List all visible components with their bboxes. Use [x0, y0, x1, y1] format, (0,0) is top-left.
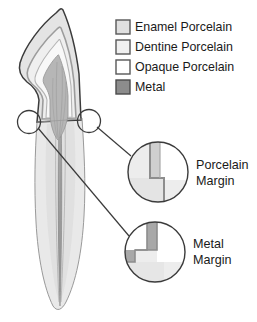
legend-item-label: Dentine Porcelain [135, 40, 233, 54]
legend-item-label: Opaque Porcelain [135, 60, 234, 74]
legend-item-opaque-porcelain[interactable]: Opaque Porcelain [116, 60, 234, 74]
legend-item-metal[interactable]: Metal [116, 80, 165, 94]
square-swatch-icon [116, 60, 130, 74]
legend-item-dentine-porcelain[interactable]: Dentine Porcelain [116, 40, 233, 54]
square-swatch-icon [116, 80, 130, 94]
leader-line-porcelain [97, 127, 131, 156]
callout-metal-margin[interactable]: Metal Margin [124, 216, 232, 288]
callout-label-line2: Margin [193, 253, 232, 267]
square-swatch-icon [116, 20, 130, 34]
diagram-canvas: Enamel Porcelain Dentine Porcelain Opaqu… [0, 0, 257, 322]
legend-item-enamel-porcelain[interactable]: Enamel Porcelain [116, 20, 232, 34]
legend-item-label: Metal [135, 80, 165, 94]
callout-label-line1: Porcelain [196, 158, 249, 172]
metal-margin-lower-fill [124, 262, 164, 288]
legend-item-label: Enamel Porcelain [135, 20, 232, 34]
callout-porcelain-margin[interactable]: Porcelain Margin [124, 136, 249, 208]
callout-label-line2: Margin [196, 174, 235, 188]
square-swatch-icon [116, 40, 130, 54]
callout-label-line1: Metal [193, 237, 224, 251]
callout-metal-detail [124, 216, 201, 288]
legend: Enamel Porcelain Dentine Porcelain Opaqu… [116, 20, 234, 94]
tooth-illustration [19, 9, 84, 310]
dental-crown-diagram: Enamel Porcelain Dentine Porcelain Opaqu… [0, 0, 257, 322]
